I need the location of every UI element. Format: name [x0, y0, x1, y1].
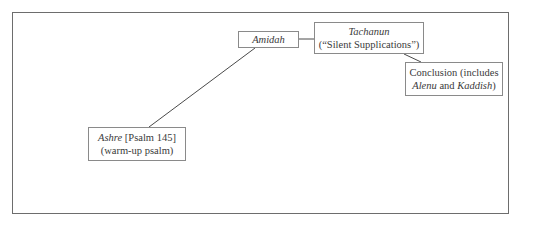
- ashre-line2: (warm-up psalm): [89, 144, 185, 157]
- ashre-title: Ashre: [98, 132, 122, 143]
- node-amidah: Amidah: [238, 31, 299, 48]
- tachanun-title: Tachanun: [348, 26, 389, 37]
- conclusion-close-paren: ): [492, 80, 496, 91]
- ashre-psalm: [Psalm 145]: [122, 132, 176, 143]
- tachanun-subtitle: (“Silent Supplications”): [315, 38, 423, 51]
- node-ashre: Ashre [Psalm 145] (warm-up psalm): [88, 127, 186, 161]
- conclusion-kaddish: Kaddish: [457, 80, 492, 91]
- amidah-label: Amidah: [252, 34, 285, 45]
- conclusion-line1: Conclusion (includes: [406, 66, 502, 79]
- conclusion-alenu: Alenu: [412, 80, 437, 91]
- node-conclusion: Conclusion (includes Alenu and Kaddish): [405, 62, 503, 96]
- node-tachanun: Tachanun (“Silent Supplications”): [314, 22, 424, 54]
- conclusion-line2: Alenu and Kaddish): [406, 79, 502, 92]
- edge-tachanun-conclusion: [404, 54, 421, 62]
- ashre-line1: Ashre [Psalm 145]: [89, 131, 185, 144]
- edge-ashre-amidah: [149, 48, 255, 127]
- conclusion-and: and: [437, 80, 457, 91]
